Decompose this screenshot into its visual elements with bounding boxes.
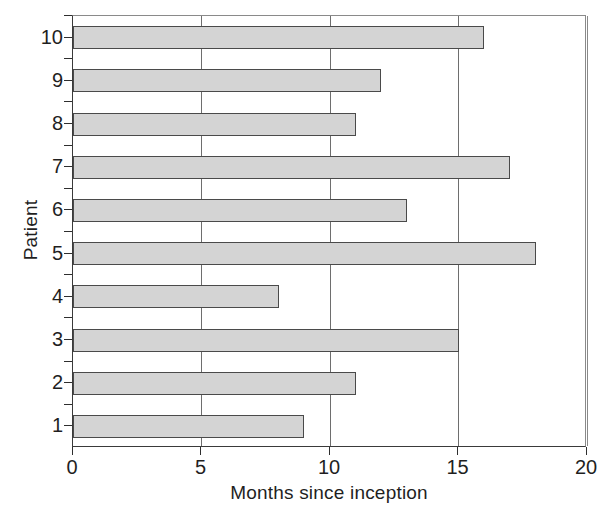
- y-tick-2: [64, 382, 72, 383]
- x-tick-0: [72, 447, 73, 455]
- y-tick-label-7: 7: [52, 155, 63, 178]
- y-axis-title: Patient: [14, 5, 48, 455]
- y-tick-7: [64, 166, 72, 167]
- x-tick-label-0: 0: [66, 456, 77, 479]
- bar-patient-7: [73, 156, 510, 179]
- y-tick-minor-7: [64, 101, 72, 102]
- gridline-x-20: [587, 16, 588, 446]
- x-tick-label-15: 15: [446, 456, 468, 479]
- y-tick-label-9: 9: [52, 68, 63, 91]
- y-tick-label-6: 6: [52, 198, 63, 221]
- y-tick-minor-9: [64, 15, 72, 16]
- y-tick-label-8: 8: [52, 112, 63, 135]
- y-tick-label-4: 4: [52, 284, 63, 307]
- y-tick-8: [64, 123, 72, 124]
- y-tick-3: [64, 339, 72, 340]
- y-tick-minor-4: [64, 231, 72, 232]
- x-tick-15: [457, 447, 458, 455]
- x-tick-5: [200, 447, 201, 455]
- y-tick-minor-1: [64, 361, 72, 362]
- gridline-x-15: [458, 16, 459, 446]
- y-tick-6: [64, 209, 72, 210]
- bar-patient-9: [73, 69, 381, 92]
- y-tick-label-1: 1: [52, 414, 63, 437]
- y-tick-minor-2: [64, 317, 72, 318]
- y-tick-label-5: 5: [52, 241, 63, 264]
- x-tick-label-5: 5: [195, 456, 206, 479]
- plot-area: [72, 15, 586, 447]
- x-axis-title: Months since inception: [72, 482, 586, 504]
- bar-patient-6: [73, 199, 407, 222]
- x-tick-label-10: 10: [318, 456, 340, 479]
- y-tick-minor-0: [64, 404, 72, 405]
- bar-patient-1: [73, 415, 304, 438]
- x-tick-10: [329, 447, 330, 455]
- x-tick-label-20: 20: [575, 456, 597, 479]
- x-tick-20: [586, 447, 587, 455]
- y-tick-10: [64, 37, 72, 38]
- bar-chart: Patient 05101520 12345678910 Months sinc…: [0, 0, 605, 515]
- y-tick-minor-5: [64, 188, 72, 189]
- y-tick-label-10: 10: [41, 25, 63, 48]
- y-tick-label-2: 2: [52, 371, 63, 394]
- bar-patient-2: [73, 372, 356, 395]
- y-tick-4: [64, 296, 72, 297]
- y-tick-minor-3: [64, 274, 72, 275]
- y-tick-9: [64, 80, 72, 81]
- bar-patient-8: [73, 113, 356, 136]
- y-tick-label-3: 3: [52, 328, 63, 351]
- bar-patient-10: [73, 26, 484, 49]
- bar-patient-5: [73, 242, 536, 265]
- y-tick-minor-6: [64, 145, 72, 146]
- y-tick-5: [64, 253, 72, 254]
- y-tick-1: [64, 425, 72, 426]
- bar-patient-4: [73, 285, 279, 308]
- y-tick-minor-8: [64, 58, 72, 59]
- bar-patient-3: [73, 329, 459, 352]
